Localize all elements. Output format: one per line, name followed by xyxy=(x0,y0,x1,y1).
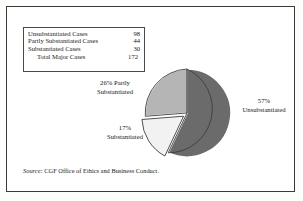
table-row-total: Total Major Cases 172 xyxy=(28,53,140,61)
pie-label-unsub-line2: Unsubstantiated xyxy=(229,105,299,114)
row-value-total: 172 xyxy=(114,53,140,61)
row-label-total: Total Major Cases xyxy=(28,53,114,61)
source-prefix: Source: xyxy=(23,167,43,174)
pie-label-subst-line2: Substantiated xyxy=(86,132,164,141)
counts-table: Unsubstantiated Cases 98 Partly Substant… xyxy=(23,27,145,72)
pie-label-partly-line1: 26% Partly xyxy=(76,78,154,87)
figure-container: Unsubstantiated Cases 98 Partly Substant… xyxy=(0,0,303,201)
pie-label-partly-substantiated: 26% Partly Substantiated xyxy=(76,78,154,96)
pie-label-subst-line1: 17% xyxy=(86,123,164,132)
pie-chart-svg xyxy=(141,67,233,159)
counts-table-grid: Unsubstantiated Cases 98 Partly Substant… xyxy=(28,30,140,61)
pie-label-substantiated: 17% Substantiated xyxy=(86,123,164,141)
pie-chart xyxy=(141,67,233,159)
pie-label-unsubstantiated: 57% Unsubstantiated xyxy=(229,96,299,114)
source-note: Source: CGF Office of Ethics and Busines… xyxy=(23,167,159,174)
pie-label-partly-line2: Substantiated xyxy=(76,87,154,96)
source-text: CGF Office of Ethics and Business Conduc… xyxy=(44,167,159,174)
pie-label-unsub-line1: 57% xyxy=(229,96,299,105)
